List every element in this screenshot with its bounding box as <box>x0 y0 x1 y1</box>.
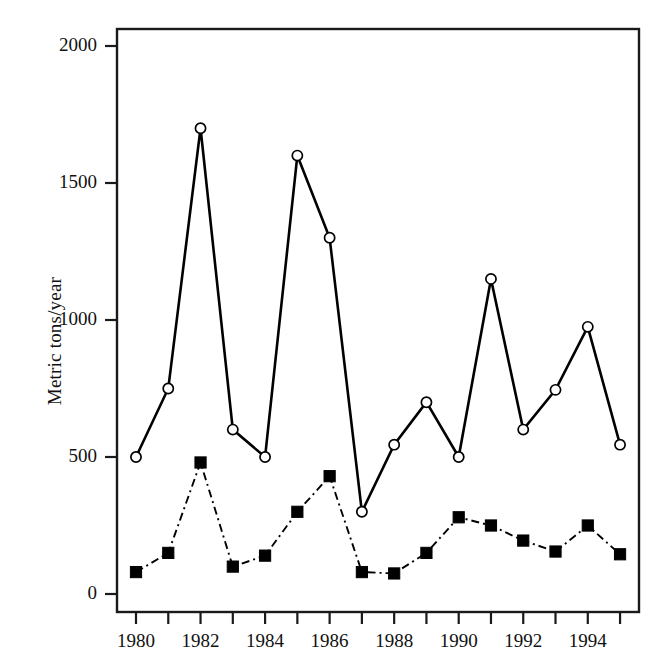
data-point <box>324 471 335 482</box>
data-point <box>292 151 302 161</box>
data-point <box>325 233 335 243</box>
data-point <box>485 520 496 531</box>
data-point <box>357 507 367 517</box>
data-point <box>131 452 141 462</box>
chart-background <box>0 0 663 671</box>
data-point <box>195 123 205 133</box>
y-tick-label: 2000 <box>0 34 97 56</box>
data-point <box>615 440 625 450</box>
data-point <box>228 425 238 435</box>
chart-figure <box>0 0 663 671</box>
data-point <box>614 549 625 560</box>
data-point <box>389 568 400 579</box>
data-point <box>356 566 367 577</box>
data-point <box>421 547 432 558</box>
data-point <box>518 425 528 435</box>
data-point <box>582 520 593 531</box>
data-point <box>130 566 141 577</box>
data-point <box>163 547 174 558</box>
x-tick-label: 1994 <box>548 630 628 652</box>
y-tick-label: 1500 <box>0 171 97 193</box>
y-tick-label: 500 <box>0 445 97 467</box>
data-point <box>453 512 464 523</box>
data-point <box>583 322 593 332</box>
data-point <box>259 550 270 561</box>
data-point <box>454 452 464 462</box>
data-point <box>518 535 529 546</box>
data-point <box>195 457 206 468</box>
data-point <box>227 561 238 572</box>
data-point <box>550 385 560 395</box>
data-point <box>550 546 561 557</box>
y-tick-label: 0 <box>0 582 97 604</box>
data-point <box>163 383 173 393</box>
data-point <box>486 274 496 284</box>
data-point <box>389 440 399 450</box>
data-point <box>260 452 270 462</box>
y-tick-label: 1000 <box>0 308 97 330</box>
data-point <box>421 397 431 407</box>
data-point <box>292 506 303 517</box>
